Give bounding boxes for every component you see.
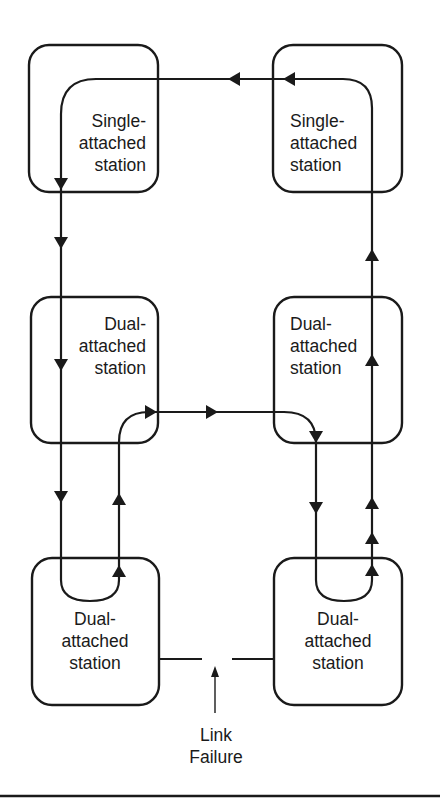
- station-label-line3: station: [69, 653, 121, 673]
- station-bottom-right: Dual- attached station: [274, 558, 402, 705]
- arrow-up-icon: [365, 564, 379, 576]
- arrow-up-icon: [365, 532, 379, 544]
- station-label-line3: station: [290, 155, 342, 175]
- station-label-line1: Single-: [92, 111, 147, 131]
- station-label-line1: Dual-: [104, 314, 146, 334]
- arrow-up-icon: [112, 493, 126, 505]
- station-label-line3: station: [312, 653, 364, 673]
- arrow-up-icon: [365, 497, 379, 509]
- failure-label-line1: Link: [200, 725, 232, 745]
- arrow-up-icon: [112, 565, 126, 577]
- ring-diagram: Single- attached station Single- attache…: [0, 0, 440, 806]
- arrow-right-icon: [145, 405, 157, 419]
- arrow-down-icon: [54, 359, 68, 371]
- arrow-down-icon: [309, 502, 323, 514]
- station-label-line3: station: [290, 358, 342, 378]
- station-label-line1: Dual-: [74, 609, 116, 629]
- station-label-line2: attached: [79, 336, 146, 356]
- arrow-left-icon: [283, 72, 295, 86]
- station-middle-right: Dual- attached station: [274, 297, 402, 443]
- station-bottom-left: Dual- attached station: [32, 558, 159, 705]
- station-top-left: Single- attached station: [29, 45, 158, 192]
- arrow-down-icon: [54, 491, 68, 503]
- station-middle-left: Dual- attached station: [31, 297, 158, 443]
- arrow-up-icon: [365, 354, 379, 366]
- arrow-up-icon: [365, 249, 379, 261]
- arrow-down-icon: [309, 431, 323, 443]
- arrow-down-icon: [54, 178, 68, 190]
- station-top-right: Single- attached station: [273, 45, 402, 192]
- station-label-line3: station: [94, 155, 146, 175]
- station-label-line2: attached: [304, 631, 371, 651]
- station-label-line2: attached: [290, 133, 357, 153]
- station-label-line2: attached: [79, 133, 146, 153]
- station-label-line1: Dual-: [317, 609, 359, 629]
- arrow-up-icon: [211, 666, 219, 677]
- failed-link: Link Failure: [159, 659, 274, 767]
- arrow-left-icon: [228, 72, 240, 86]
- station-label-line3: station: [94, 358, 146, 378]
- station-label-line1: Single-: [290, 111, 345, 131]
- station-label-line1: Dual-: [290, 314, 332, 334]
- failure-label-line2: Failure: [189, 747, 243, 767]
- station-label-line2: attached: [290, 336, 357, 356]
- arrow-right-icon: [206, 405, 218, 419]
- station-label-line2: attached: [61, 631, 128, 651]
- arrow-down-icon: [54, 237, 68, 249]
